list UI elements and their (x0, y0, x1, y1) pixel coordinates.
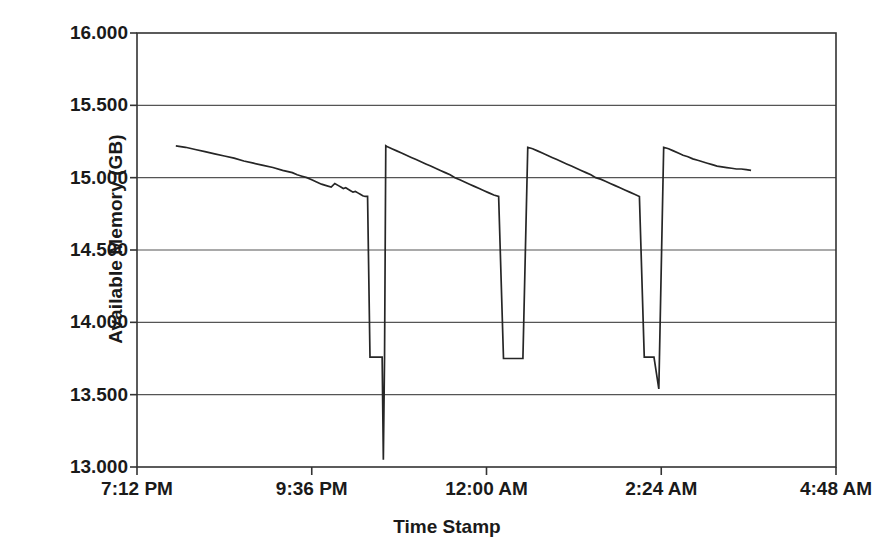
x-tick-label: 9:36 PM (276, 478, 348, 500)
x-axis-tick-labels: 7:12 PM9:36 PM12:00 AM2:24 AM4:48 AM (0, 478, 894, 508)
x-tick-label: 2:24 AM (625, 478, 697, 500)
x-tick-label: 4:48 AM (800, 478, 872, 500)
gridlines (130, 33, 836, 467)
plot-area (0, 0, 894, 560)
x-axis-title: Time Stamp (0, 516, 894, 538)
x-tick-label: 7:12 PM (101, 478, 173, 500)
memory-usage-chart: Available Memory (GB) 16.00015.50015.000… (0, 0, 894, 560)
data-series-line (176, 146, 751, 460)
x-axis-ticks (137, 467, 836, 475)
x-tick-label: 12:00 AM (445, 478, 528, 500)
